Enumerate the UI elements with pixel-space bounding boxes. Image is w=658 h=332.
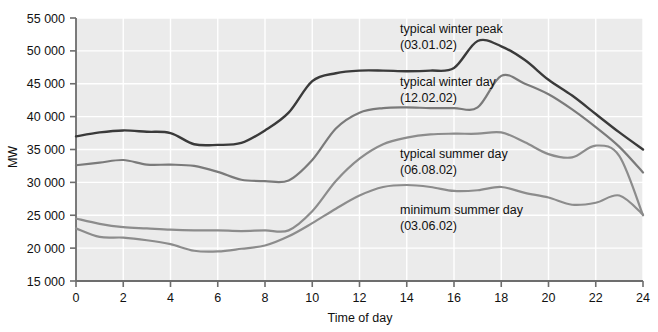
x-tick-label: 8 (262, 291, 269, 305)
load-profile-chart: 15 00020 00025 00030 00035 00040 00045 0… (0, 0, 658, 332)
x-tick-label: 14 (400, 291, 414, 305)
x-tick-label: 0 (73, 291, 80, 305)
y-tick-label: 45 000 (27, 77, 65, 91)
x-axis-tick-labels: 024681012141618202224 (73, 291, 650, 305)
y-tick-label: 20 000 (27, 242, 65, 256)
x-tick-label: 16 (447, 291, 461, 305)
y-tick-label: 55 000 (27, 12, 65, 26)
x-tick-label: 10 (305, 291, 319, 305)
typical-summer-day-annotation-line1: typical summer day (400, 147, 508, 161)
x-tick-label: 18 (494, 291, 508, 305)
typical-summer-day-annotation-line2: (06.08.02) (400, 163, 457, 177)
x-tick-label: 6 (214, 291, 221, 305)
typical-winter-day-annotation-line2: (12.02.02) (400, 91, 457, 105)
y-tick-label: 50 000 (27, 44, 65, 58)
x-tick-label: 4 (167, 291, 174, 305)
chart-svg: 15 00020 00025 00030 00035 00040 00045 0… (0, 0, 658, 332)
typical-winter-peak-annotation-line2: (03.01.02) (400, 38, 457, 52)
x-axis-title: Time of day (328, 311, 394, 325)
minimum-summer-day-annotation-line1: minimum summer day (400, 203, 524, 217)
typical-winter-day-annotation-line1: typical winter day (400, 75, 497, 89)
y-tick-label: 40 000 (27, 110, 65, 124)
y-tick-label: 25 000 (27, 209, 65, 223)
y-tick-label: 35 000 (27, 143, 65, 157)
y-tick-label: 30 000 (27, 176, 65, 190)
x-tick-label: 20 (542, 291, 556, 305)
minimum-summer-day-annotation-line2: (03.06.02) (400, 219, 457, 233)
y-axis-title: MW (6, 146, 20, 168)
x-tick-label: 24 (636, 291, 650, 305)
x-tick-label: 22 (589, 291, 603, 305)
x-tick-label: 12 (353, 291, 367, 305)
y-axis-tick-labels: 15 00020 00025 00030 00035 00040 00045 0… (27, 12, 65, 289)
typical-winter-peak-annotation-line1: typical winter peak (400, 22, 504, 36)
y-tick-label: 15 000 (27, 275, 65, 289)
x-tick-label: 2 (120, 291, 127, 305)
